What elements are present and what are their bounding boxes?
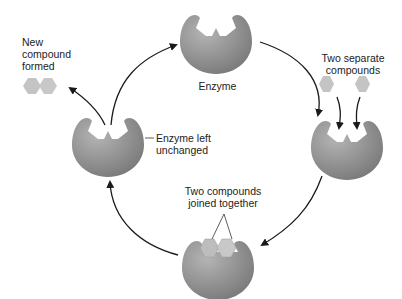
arrow-bottom-to-left bbox=[110, 182, 178, 255]
arrow-left-to-top bbox=[111, 45, 176, 125]
compound-hexagon-b bbox=[355, 76, 370, 92]
arrow-right-to-bottom bbox=[262, 176, 322, 245]
label-new-compound: New compound formed bbox=[22, 36, 92, 72]
new-compound-hexagon-a bbox=[23, 78, 41, 94]
label-unchanged: Enzyme left unchanged bbox=[156, 132, 226, 156]
enzyme-bottom bbox=[182, 214, 254, 299]
enzyme-top bbox=[180, 15, 252, 74]
enzyme-cycle-diagram: Enzyme Two separate compounds Two compou… bbox=[0, 0, 402, 299]
label-two-separate: Two separate compounds bbox=[313, 52, 393, 76]
arrow-top-to-right bbox=[260, 42, 319, 115]
label-joined: Two compounds joined together bbox=[183, 185, 263, 209]
enzyme-left bbox=[72, 118, 144, 177]
new-compound-hexagon-b bbox=[39, 78, 57, 94]
label-enzyme: Enzyme bbox=[190, 80, 245, 92]
compound-hexagon-a bbox=[319, 76, 334, 92]
enzyme-right bbox=[311, 121, 383, 180]
